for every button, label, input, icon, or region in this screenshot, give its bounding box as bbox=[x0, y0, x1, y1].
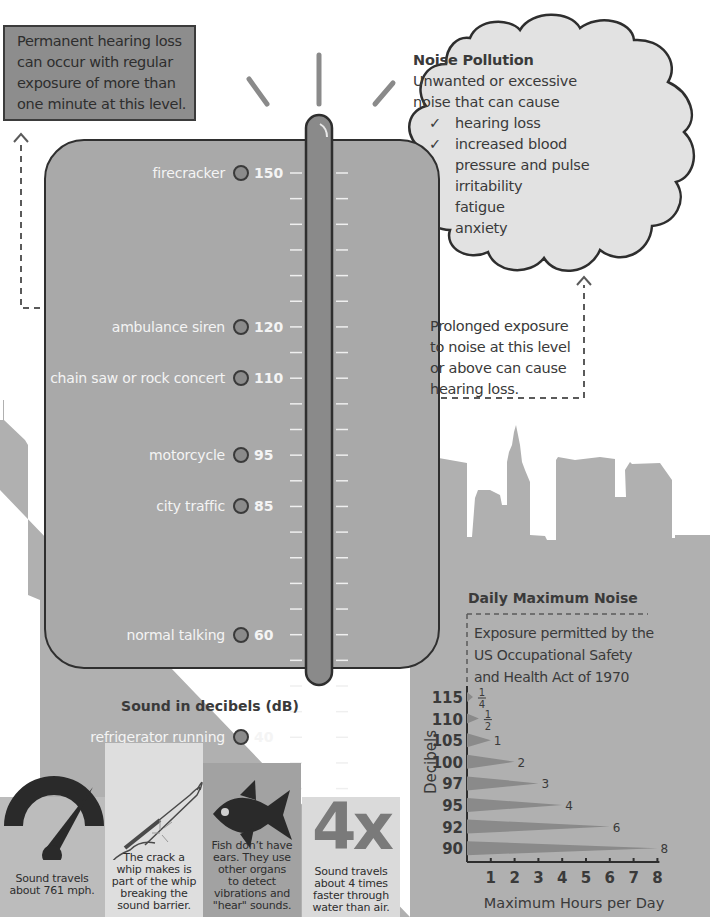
bar-value-label: 8 bbox=[660, 842, 668, 856]
bar-value-label: 6 bbox=[613, 821, 621, 835]
x-tick-label: 8 bbox=[652, 869, 662, 887]
bar bbox=[467, 692, 473, 702]
bar bbox=[467, 841, 657, 855]
x-tick-label: 3 bbox=[533, 869, 543, 887]
daily-max-chart: 12345678Maximum Hours per DayDecibels115… bbox=[0, 0, 710, 917]
x-tick-label: 5 bbox=[581, 869, 591, 887]
y-tick-label: 90 bbox=[442, 840, 463, 858]
bar-value-label: 1 bbox=[485, 709, 491, 720]
x-tick-label: 1 bbox=[486, 869, 496, 887]
bar-value-label: 2 bbox=[518, 756, 526, 770]
bar bbox=[467, 733, 491, 747]
x-tick-label: 7 bbox=[628, 869, 638, 887]
y-tick-label: 110 bbox=[432, 711, 463, 729]
x-tick-label: 6 bbox=[605, 869, 615, 887]
bar-value-label: 2 bbox=[485, 721, 491, 732]
y-tick-label: 97 bbox=[442, 775, 463, 793]
y-tick-label: 92 bbox=[442, 819, 463, 837]
y-tick-label: 100 bbox=[432, 754, 463, 772]
x-axis-label: Maximum Hours per Day bbox=[484, 895, 665, 911]
x-tick-label: 4 bbox=[557, 869, 567, 887]
bar bbox=[467, 820, 610, 834]
bar-value-label: 3 bbox=[541, 777, 549, 791]
y-tick-label: 115 bbox=[432, 689, 463, 707]
bar bbox=[467, 755, 515, 769]
bar bbox=[467, 714, 479, 724]
bar bbox=[467, 776, 538, 790]
y-tick-label: 95 bbox=[442, 797, 463, 815]
bar bbox=[467, 798, 562, 812]
y-tick-label: 105 bbox=[432, 732, 463, 750]
bar-value-label: 1 bbox=[494, 734, 502, 748]
x-tick-label: 2 bbox=[509, 869, 519, 887]
bar-value-label: 4 bbox=[565, 799, 573, 813]
bar-value-label: 1 bbox=[479, 687, 485, 698]
